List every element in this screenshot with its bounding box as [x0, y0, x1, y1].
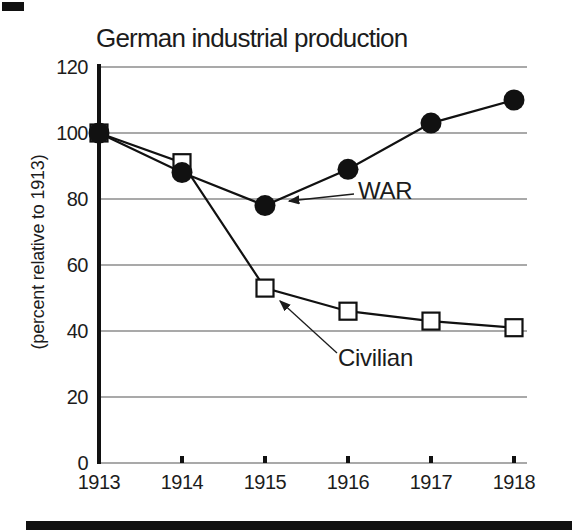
- civilian-annotation-arrow: [280, 301, 337, 353]
- x-tick-label-1916: 1916: [327, 471, 370, 493]
- x-tick-1917: [429, 456, 433, 463]
- war-point-1917: [421, 113, 442, 134]
- series-civilian: [91, 125, 523, 337]
- scan-corner-artifact: [2, 2, 24, 11]
- civilian-point-1916: [340, 303, 357, 320]
- x-tick-label-1917: 1917: [410, 471, 453, 493]
- page-bottom-rule: [26, 521, 572, 530]
- x-tick-label-1915: 1915: [244, 471, 287, 493]
- data-series: [89, 90, 525, 337]
- page: German industrial production (percent re…: [0, 0, 572, 530]
- war-point-1918: [504, 90, 525, 111]
- war-point-1913: [89, 123, 110, 144]
- y-tick-label-80: 80: [67, 188, 89, 210]
- y-tick-label-100: 100: [56, 122, 88, 144]
- civilian-point-1915: [257, 280, 274, 297]
- war-line: [99, 100, 514, 206]
- x-tick-label-1914: 1914: [161, 471, 204, 493]
- y-axis-label: (percent relative to 1913): [28, 155, 48, 350]
- civilian-point-1917: [423, 313, 440, 330]
- x-tick-label-1918: 1918: [493, 471, 536, 493]
- chart: German industrial production (percent re…: [0, 0, 572, 530]
- war-point-1915: [255, 195, 276, 216]
- y-tick-labels: 020406080100120: [56, 56, 88, 474]
- x-tick-1914: [180, 456, 184, 463]
- y-tick-label-20: 20: [67, 386, 89, 408]
- chart-title: German industrial production: [96, 23, 407, 53]
- war-annotation-arrow: [289, 194, 354, 201]
- x-tick-1916: [346, 456, 350, 463]
- x-tick-labels: 191319141915191619171918: [78, 456, 536, 493]
- civilian-point-1918: [506, 319, 523, 336]
- y-tick-label-120: 120: [56, 56, 88, 78]
- war-point-1916: [338, 159, 359, 180]
- civilian-annotation-label: Civilian: [338, 344, 413, 371]
- gridlines: [99, 67, 527, 463]
- y-tick-label-60: 60: [67, 254, 89, 276]
- x-tick-1918: [512, 456, 516, 463]
- x-tick-label-1913: 1913: [78, 471, 121, 493]
- y-tick-label-40: 40: [67, 320, 89, 342]
- war-point-1914: [172, 162, 193, 183]
- war-annotation-label: WAR: [358, 177, 412, 204]
- x-tick-1915: [263, 456, 267, 463]
